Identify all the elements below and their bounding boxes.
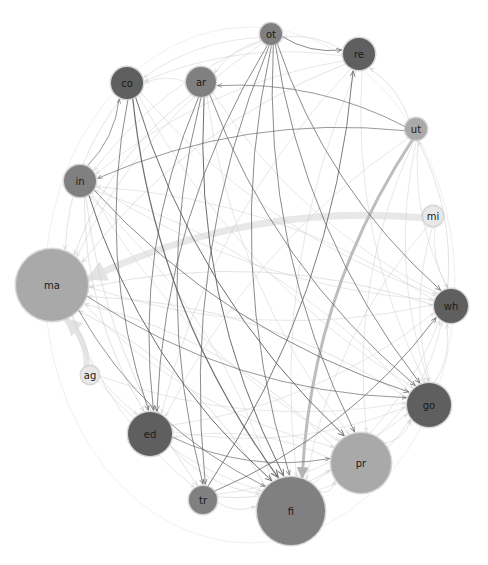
node-ma[interactable]: ma	[15, 248, 90, 323]
edge-ot-to-ar	[215, 40, 262, 72]
edges-layer	[45, 27, 455, 543]
edge-ma-to-fi	[78, 310, 265, 487]
node-label: ut	[411, 124, 421, 135]
node-label: mi	[427, 211, 440, 222]
node-label: ar	[196, 77, 207, 88]
node-label: ma	[44, 280, 60, 291]
edge-re-to-ot	[284, 36, 344, 50]
edge-ar-to-go	[210, 94, 416, 385]
node-label: re	[354, 49, 364, 60]
edge-wh-to-ma	[90, 271, 434, 305]
edge-ma-to-pr	[83, 303, 333, 447]
network-graph: otrecoarutinmimawhaggoedprtrfi	[0, 0, 488, 565]
edge-go-to-wh	[434, 325, 448, 384]
edge-pr-to-ma	[85, 304, 335, 448]
node-pr[interactable]: pr	[330, 432, 393, 495]
edge-pr-to-go	[384, 421, 411, 444]
edge-tr-to-re	[208, 71, 354, 487]
edge-ar-to-tr	[177, 97, 203, 484]
node-label: wh	[444, 301, 459, 312]
node-label: co	[121, 78, 133, 89]
edge-ma-to-tr	[73, 315, 194, 487]
node-co[interactable]: co	[110, 66, 145, 101]
edge-in-to-co	[87, 99, 119, 166]
edge-fi-to-pr	[319, 481, 335, 492]
node-label: in	[75, 176, 84, 187]
node-go[interactable]: go	[406, 382, 453, 429]
node-ar[interactable]: ar	[185, 66, 218, 99]
edge-ed-to-fi	[169, 445, 259, 494]
edge-re-to-go	[361, 70, 425, 382]
edge-ar-to-fi	[203, 97, 284, 476]
node-ed[interactable]: ed	[127, 411, 174, 458]
node-label: fi	[288, 506, 294, 517]
edge-ut-to-pr	[363, 140, 414, 432]
node-ut[interactable]: ut	[404, 117, 429, 142]
edge-co-to-wh	[140, 92, 435, 295]
node-mi[interactable]: mi	[422, 205, 445, 228]
node-fi[interactable]: fi	[256, 476, 327, 547]
edge-ma-to-go	[86, 296, 406, 398]
edge-ut-to-ar	[218, 85, 406, 127]
node-label: go	[423, 400, 435, 411]
node-label: ed	[144, 429, 157, 440]
node-in[interactable]: in	[63, 164, 98, 199]
node-label: ot	[266, 29, 276, 40]
edge-mi-to-wh	[434, 226, 447, 288]
node-label: tr	[199, 495, 208, 506]
node-ag[interactable]: ag	[80, 365, 101, 386]
nodes-layer: otrecoarutinmimawhaggoedprtrfi	[15, 22, 470, 547]
edge-ar-to-co	[145, 78, 186, 83]
node-label: pr	[356, 458, 367, 469]
edge-in-to-wh	[95, 186, 433, 300]
edge-fi-to-ma	[80, 311, 267, 488]
node-re[interactable]: re	[342, 37, 377, 72]
edge-mi-to-ma	[89, 215, 423, 278]
edge-pr-to-ed	[174, 433, 331, 459]
edge-tr-to-fi	[217, 502, 255, 510]
node-tr[interactable]: tr	[188, 485, 219, 516]
edge-ag-to-fi	[98, 380, 262, 491]
layout-ring	[45, 27, 455, 543]
node-wh[interactable]: wh	[433, 288, 470, 325]
edge-go-to-ma	[88, 297, 408, 399]
node-ot[interactable]: ot	[259, 22, 284, 47]
node-label: ag	[84, 370, 96, 381]
